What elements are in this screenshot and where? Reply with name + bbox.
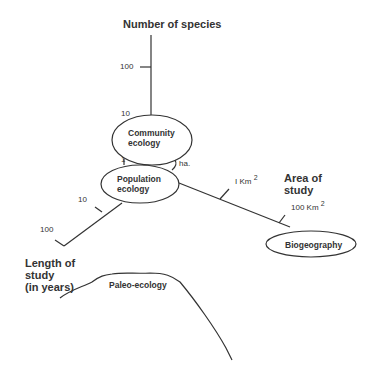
biogeography-label: Biogeography [285,240,342,250]
species-tick-label-10: 10 [121,110,130,118]
length-tick-label-10: 10 [78,196,87,204]
area-axis [179,183,290,227]
tick-label-ha: ha. [179,160,190,168]
length-tick-label-100: 100 [40,226,53,234]
tick-label-1: 1 [121,156,125,164]
paleo-ecology-label: Paleo-ecology [109,280,167,290]
community-ecology-label: Community ecology [128,128,175,148]
area-tick-label-100km2: 100 Km 2 [291,204,325,212]
ecology-scale-diagram: Number of species 100 10 Community ecolo… [0,0,372,375]
species-tick-label-100: 100 [120,63,133,71]
species-axis-title: Number of species [123,18,221,30]
length-axis [64,203,122,246]
area-tick-label-1km2: I Km 2 [235,178,258,186]
length-axis-title: Length of study (in years) [25,257,75,293]
area-axis-title: Area of study [284,172,322,196]
population-ecology-label: Population ecology [117,174,161,194]
